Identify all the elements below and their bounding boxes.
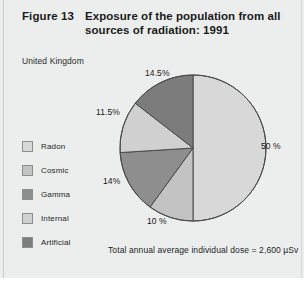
- slice-label-artificial: 14.5%: [145, 68, 170, 78]
- figure-number: Figure 13: [22, 10, 74, 22]
- slice-label-gamma: 14%: [103, 176, 120, 186]
- pie-slices: [120, 75, 266, 221]
- legend-swatch-radon: [22, 141, 33, 152]
- page-rule-right: [301, 0, 302, 282]
- legend-swatch-cosmic: [22, 165, 33, 176]
- page-title: Exposure of the population from all sour…: [85, 10, 285, 37]
- chart-legend: Radon Cosmic Gamma Internal Artificial: [22, 140, 71, 260]
- figure-subtitle: United Kingdom: [22, 56, 84, 66]
- legend-swatch-artificial: [22, 237, 33, 248]
- figure-container: Figure 13 Exposure of the population fro…: [0, 0, 304, 282]
- slice-label-internal: 11.5%: [96, 107, 120, 117]
- legend-label-gamma: Gamma: [41, 190, 70, 199]
- legend-item-radon: Radon: [22, 140, 71, 152]
- legend-label-radon: Radon: [41, 142, 65, 151]
- page-rule-left: [3, 0, 4, 282]
- legend-label-cosmic: Cosmic: [41, 166, 69, 175]
- legend-label-artificial: Artificial: [41, 238, 71, 247]
- legend-swatch-gamma: [22, 189, 33, 200]
- legend-item-internal: Internal: [22, 212, 71, 224]
- slice-label-radon: 50 %: [261, 141, 281, 151]
- legend-item-cosmic: Cosmic: [22, 164, 71, 176]
- legend-item-artificial: Artificial: [22, 236, 71, 248]
- legend-item-gamma: Gamma: [22, 188, 71, 200]
- figure-footnote: Total annual average individual dose = 2…: [108, 245, 298, 255]
- figure-header: Figure 13 Exposure of the population fro…: [22, 10, 292, 37]
- pie-slice-radon: [193, 75, 266, 221]
- legend-label-internal: Internal: [41, 214, 69, 223]
- page-rule-bottom: [0, 278, 304, 282]
- legend-swatch-internal: [22, 213, 33, 224]
- slice-label-cosmic: 10 %: [147, 216, 167, 226]
